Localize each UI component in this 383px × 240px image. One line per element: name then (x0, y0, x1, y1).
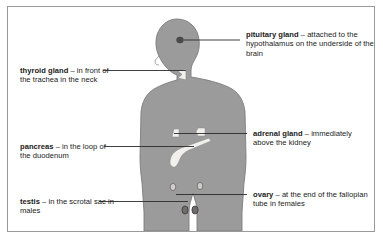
callout-pituitary-gland-term: pituitary gland (246, 30, 299, 39)
callout-thyroid-gland-term: thyroid gland (20, 66, 68, 75)
testis-organ (182, 206, 198, 214)
callout-testis: testis – in the scrotal sac in males (20, 197, 114, 216)
diagram-stage: thyroid gland – in front of the trachea … (8, 7, 374, 231)
callout-ovary: ovary – at the end of the fallopian tube… (253, 190, 373, 209)
callout-thyroid-gland: thyroid gland – in front of the trachea … (20, 66, 116, 85)
endocrine-glands-figure-panel: thyroid gland – in front of the trachea … (7, 6, 375, 232)
callout-adrenal-gland-term: adrenal gland (253, 129, 303, 138)
human-body-silhouette (140, 19, 246, 231)
callout-pituitary-gland: pituitary gland – attached to the hypoth… (246, 30, 374, 58)
callout-testis-term: testis (20, 197, 40, 206)
callout-pancreas-term: pancreas (20, 142, 54, 151)
callout-adrenal-gland: adrenal gland – immediately above the ki… (253, 129, 371, 148)
pituitary-gland-organ (177, 37, 184, 43)
callout-ovary-term: ovary (253, 190, 273, 199)
callout-pancreas: pancreas – in the loop of the duodenum (20, 142, 118, 161)
